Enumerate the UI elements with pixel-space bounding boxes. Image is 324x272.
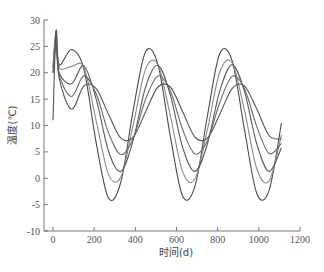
y-tick-label: 20 [30, 67, 40, 78]
line-chart: -10-5051015202530 020040060080010001200 … [0, 0, 324, 272]
x-tick-label: 400 [128, 234, 143, 245]
series-line-curve-3 [53, 41, 282, 172]
y-tick-label: -10 [27, 226, 40, 237]
series-line-curve-1 [53, 31, 282, 201]
x-tick-label: 200 [87, 234, 102, 245]
x-axis-title: 时间(d) [159, 246, 193, 258]
plot-lines [53, 30, 282, 201]
x-ticks: 020040060080010001200 [51, 227, 311, 245]
x-tick-label: 600 [169, 234, 184, 245]
y-axis-title: 温度(℃) [6, 105, 18, 144]
series-line-curve-2 [53, 36, 282, 183]
y-tick-label: 25 [30, 41, 40, 52]
y-tick-label: -5 [32, 199, 40, 210]
x-tick-label: 800 [210, 234, 225, 245]
y-tick-label: 0 [35, 173, 40, 184]
y-ticks: -10-5051015202530 [27, 15, 48, 237]
y-tick-label: 30 [30, 15, 40, 26]
y-tick-label: 15 [30, 94, 40, 105]
y-tick-label: 10 [30, 120, 40, 131]
x-tick-label: 1200 [290, 234, 310, 245]
y-tick-label: 5 [35, 146, 40, 157]
x-tick-label: 0 [51, 234, 56, 245]
x-tick-label: 1000 [249, 234, 269, 245]
